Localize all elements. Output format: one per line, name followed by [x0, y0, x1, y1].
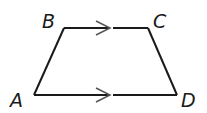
vertex-label-b: B — [42, 12, 55, 31]
trapezoid-diagram: B C A D — [0, 0, 207, 113]
side-cd — [148, 28, 177, 95]
vertex-label-a: A — [10, 91, 23, 110]
trapezoid-svg — [0, 0, 207, 113]
side-ab — [34, 28, 64, 95]
vertex-label-c: C — [153, 12, 166, 31]
vertex-label-d: D — [181, 91, 196, 110]
